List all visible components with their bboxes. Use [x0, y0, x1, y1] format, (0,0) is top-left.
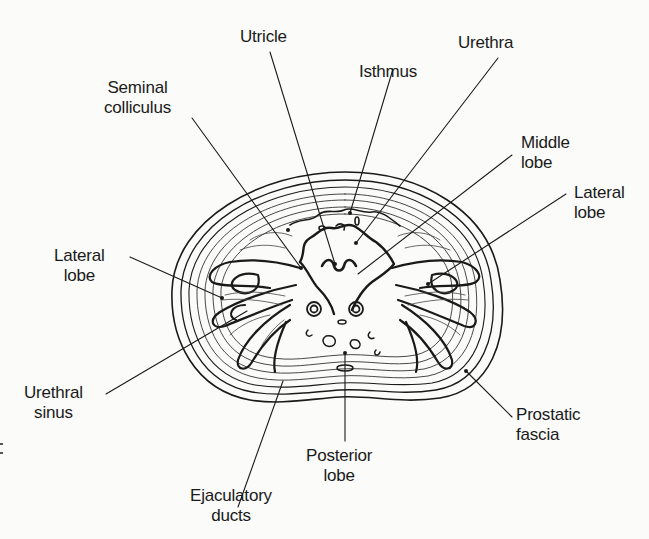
- label-seminal-colliculus: Seminal colliculus: [104, 78, 171, 118]
- leader-urethral-sinus: [106, 311, 247, 394]
- label-urethra: Urethra: [458, 33, 513, 53]
- label-utricle: Utricle: [240, 27, 287, 47]
- label-isthmus-text: Isthmus: [359, 62, 417, 82]
- label-middle-lobe-line1: Middle: [521, 133, 570, 153]
- leader-lateral-lobe-right: [428, 194, 566, 284]
- label-lateral-lobe-right: Lateral lobe: [574, 183, 625, 223]
- label-urethral-sinus: Urethral sinus: [24, 383, 83, 423]
- label-ejaculatory-ducts-line1: Ejaculatory: [190, 486, 272, 506]
- leader-lateral-lobe-left: [130, 257, 222, 298]
- leader-prostatic-fascia: [466, 371, 512, 417]
- posterior-lobe-glands: [306, 320, 380, 371]
- label-utricle-text: Utricle: [240, 27, 287, 47]
- leader-middle-lobe: [358, 155, 512, 274]
- label-lateral-lobe-left-line2: lobe: [54, 266, 105, 286]
- label-ejaculatory-ducts: Ejaculatory ducts: [190, 486, 272, 526]
- label-prostatic-fascia-line2: fascia: [516, 425, 580, 445]
- label-urethral-sinus-line1: Urethral: [24, 383, 83, 403]
- label-posterior-lobe: Posterior lobe: [306, 446, 372, 486]
- label-isthmus: Isthmus: [359, 62, 417, 82]
- label-urethral-sinus-line2: sinus: [24, 403, 83, 423]
- label-posterior-lobe-line2: lobe: [306, 466, 372, 486]
- label-lateral-lobe-left: Lateral lobe: [54, 246, 105, 286]
- label-lateral-lobe-right-line1: Lateral: [574, 183, 625, 203]
- urethra-lumen: [300, 225, 394, 314]
- label-lateral-lobe-left-line1: Lateral: [54, 246, 105, 266]
- label-middle-lobe: Middle lobe: [521, 133, 570, 173]
- leader-lines: [106, 52, 566, 507]
- label-seminal-colliculus-line2: colliculus: [104, 98, 171, 118]
- label-prostatic-fascia: Prostatic fascia: [516, 405, 580, 445]
- label-middle-lobe-line2: lobe: [521, 153, 570, 173]
- label-posterior-lobe-line1: Posterior: [306, 446, 372, 466]
- label-prostatic-fascia-line1: Prostatic: [516, 405, 580, 425]
- label-seminal-colliculus-line1: Seminal: [104, 78, 171, 98]
- page-edge-mark: [0, 452, 3, 454]
- leader-utricle: [270, 52, 335, 264]
- label-lateral-lobe-right-line2: lobe: [574, 203, 625, 223]
- seminal-colliculus-bump: [322, 260, 356, 271]
- page-edge-mark: [0, 443, 3, 445]
- label-ejaculatory-ducts-line2: ducts: [190, 506, 272, 526]
- label-urethra-text: Urethra: [458, 33, 513, 53]
